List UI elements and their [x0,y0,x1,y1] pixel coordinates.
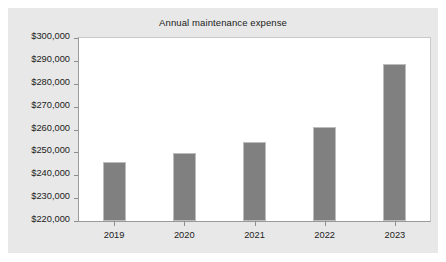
x-axis-tick-mark [325,221,326,226]
y-axis-tick-label: $300,000 [31,31,70,41]
y-axis-tick-label: $240,000 [31,168,70,178]
x-axis-tick-label: 2023 [385,230,406,240]
bar-2020 [173,153,196,221]
y-axis-tick-label: $280,000 [31,77,70,87]
bar-2021 [243,142,266,221]
y-axis-tick-label: $270,000 [31,100,70,110]
chart-figure: Annual maintenance expense $300,000$290,… [8,8,438,253]
x-axis-tick-label: 2021 [244,230,265,240]
y-axis-tick-mark [74,198,78,199]
x-axis-tick-label: 2022 [314,230,335,240]
y-axis-tick-mark [74,38,78,39]
y-axis-tick-label: $230,000 [31,191,70,201]
x-axis-tick-mark [395,221,396,226]
bar-2023 [383,64,406,221]
y-axis-tick-label: $260,000 [31,123,70,133]
y-axis-tick-mark [74,152,78,153]
y-axis-tick-label: $290,000 [31,54,70,64]
bar-2022 [313,127,336,221]
y-axis-tick-label: $250,000 [31,145,70,155]
x-axis-tick-label: 2019 [104,230,125,240]
y-axis-tick-mark [74,84,78,85]
plot-area: $300,000$290,000$280,000$270,000$260,000… [78,37,431,222]
x-axis-tick-mark [114,221,115,226]
bar-2019 [103,162,126,221]
x-axis-tick-mark [184,221,185,226]
x-axis-tick-mark [255,221,256,226]
y-axis-tick-mark [74,130,78,131]
chart-title: Annual maintenance expense [8,17,438,28]
y-axis-tick-mark [74,107,78,108]
y-axis-tick-mark [74,221,78,222]
y-axis-tick-label: $220,000 [31,214,70,224]
x-axis-tick-label: 2020 [174,230,195,240]
y-axis-tick-mark [74,175,78,176]
y-axis-tick-mark [74,61,78,62]
